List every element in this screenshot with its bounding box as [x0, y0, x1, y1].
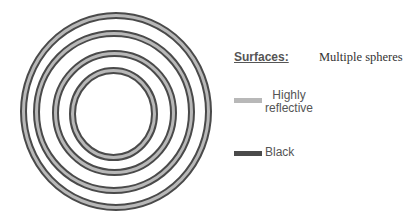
reflective-swatch-icon — [234, 98, 262, 103]
legend-label-reflective: Highly reflective — [264, 89, 314, 115]
sphere-inner — [73, 71, 155, 158]
sphere-outer — [24, 16, 209, 208]
diagram-subtitle: Multiple spheres — [319, 50, 403, 65]
legend-label-black: Black — [265, 146, 294, 159]
concentric-spheres — [0, 0, 230, 224]
legend-label-reflective-line2: reflective — [264, 102, 314, 115]
sphere-2 — [37, 34, 192, 191]
legend-title: Surfaces: — [234, 50, 289, 64]
black-swatch-icon — [234, 151, 262, 156]
